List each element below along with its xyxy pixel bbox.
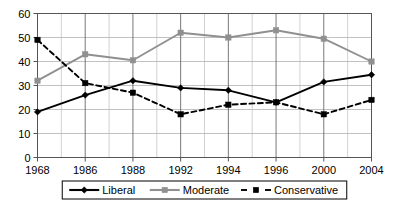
y-tick-label: 60 [18, 8, 30, 20]
chart-background [0, 0, 393, 211]
x-tick-label: 1996 [264, 164, 288, 176]
data-point [35, 78, 40, 83]
x-tick-label: 1988 [121, 164, 145, 176]
data-point [226, 35, 231, 40]
y-tick-label: 40 [18, 56, 30, 68]
x-tick-label: 1968 [25, 164, 49, 176]
data-point [321, 36, 326, 41]
y-tick-label: 10 [18, 128, 30, 140]
data-point [273, 100, 278, 105]
x-tick-label: 2000 [312, 164, 336, 176]
y-tick-label: 20 [18, 104, 30, 116]
x-tick-label: 2004 [359, 164, 383, 176]
data-point [130, 58, 135, 63]
y-tick-label: 30 [18, 80, 30, 92]
legend-label: Moderate [183, 184, 229, 196]
data-point [369, 59, 374, 64]
legend-label: Conservative [274, 184, 338, 196]
data-point [273, 28, 278, 33]
x-tick-label: 1986 [73, 164, 97, 176]
data-point [130, 90, 135, 95]
data-point [83, 52, 88, 57]
chart-canvas: 0102030405060 19681986198819921994199620… [0, 0, 393, 211]
legend-marker [253, 187, 258, 192]
data-point [369, 97, 374, 102]
y-tick-label: 0 [24, 152, 30, 164]
legend-label: Liberal [102, 184, 135, 196]
chart-legend: LiberalModerateConservative [62, 181, 347, 199]
data-point [35, 37, 40, 42]
line-chart: 0102030405060 19681986198819921994199620… [0, 0, 393, 211]
data-point [83, 80, 88, 85]
data-point [178, 112, 183, 117]
legend-marker [162, 187, 167, 192]
y-tick-label: 50 [18, 32, 30, 44]
data-point [321, 112, 326, 117]
data-point [178, 30, 183, 35]
data-point [226, 102, 231, 107]
x-tick-label: 1992 [168, 164, 192, 176]
x-tick-label: 1994 [216, 164, 240, 176]
